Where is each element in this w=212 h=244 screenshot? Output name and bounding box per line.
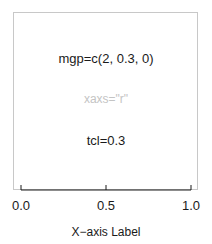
x-tick-label-0.5: 0.5 [86, 198, 126, 213]
x-tick-label-1: 1.0 [171, 198, 211, 213]
x-axis-label: X−axis Label [0, 225, 212, 239]
x-tick-label-0: 0.0 [1, 198, 41, 213]
